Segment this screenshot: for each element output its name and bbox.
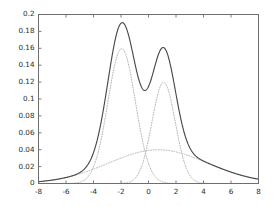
gaussian-mixture-density-chart: 00.020.040.060.080.10.120.140.160.180.2 … [0,0,274,207]
x-tick-label: -4 [90,187,98,196]
y-tick-label: 0.16 [18,43,34,52]
x-tick-label: 8 [256,187,261,196]
x-tick-label: 2 [174,187,179,196]
figure: 00.020.040.060.080.10.120.140.160.180.2 … [0,0,274,207]
x-tick-label: -6 [62,187,70,196]
y-tick-label: 0.06 [18,128,34,137]
y-tick-label: 0.18 [18,26,34,35]
x-tick-label: -2 [117,187,124,196]
y-tick-label: 0.04 [18,145,34,154]
x-tick-label: 6 [229,187,234,196]
x-tick-label: 4 [201,187,206,196]
x-tick-label: -8 [35,187,43,196]
y-tick-label: 0.12 [18,77,34,86]
y-tick-label: 0.02 [18,162,34,171]
y-tick-label: 0.2 [23,9,34,18]
x-tick-label: 0 [146,187,151,196]
y-tick-label: 0.14 [18,60,34,69]
y-tick-label: 0.1 [23,94,34,103]
y-tick-label: 0.08 [18,111,34,120]
